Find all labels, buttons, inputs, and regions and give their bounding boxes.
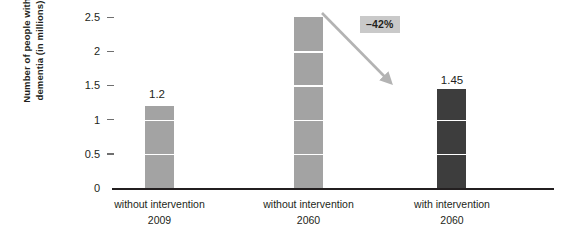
category-scenario: without intervention	[263, 198, 353, 210]
y-tick-mark	[107, 51, 114, 52]
category-year: 2060	[241, 212, 376, 228]
dementia-bar-chart: Number of people with dementia (in milli…	[0, 0, 571, 238]
bar-segment-divider	[145, 120, 174, 122]
x-axis-baseline	[112, 188, 554, 190]
y-tick-0-5: 0.5	[58, 147, 116, 161]
y-tick-label: 0.5	[60, 147, 100, 161]
category-label-3: with intervention 2060	[391, 196, 513, 228]
y-tick-label: 1	[60, 113, 100, 127]
bar-without-intervention-2009[interactable]	[145, 106, 174, 188]
bar-value-label-1: 1.2	[127, 88, 187, 101]
bar-segment-divider	[145, 154, 174, 156]
y-tick-mark	[107, 85, 114, 86]
y-axis-title: Number of people with dementia (in milli…	[21, 0, 46, 136]
bar-segment-divider	[437, 120, 466, 122]
category-label-2: without intervention 2060	[241, 196, 376, 228]
y-tick-label: 2	[60, 44, 100, 58]
y-tick-2: 2	[58, 44, 116, 58]
y-tick-0: 0	[58, 181, 116, 195]
y-tick-mark	[107, 17, 114, 18]
y-tick-label: 0	[60, 181, 100, 195]
y-tick-1-5: 1.5	[58, 78, 116, 92]
y-tick-label: 2.5	[60, 10, 100, 24]
bar-segment-divider	[437, 154, 466, 156]
category-scenario: with intervention	[414, 198, 490, 210]
y-tick-mark	[107, 153, 114, 154]
bar-segment-divider	[294, 154, 323, 156]
reduction-percentage-badge: –42%	[360, 16, 400, 33]
category-year: 2009	[92, 212, 227, 228]
bar-with-intervention-2060[interactable]	[437, 89, 466, 188]
category-label-1: without intervention 2009	[92, 196, 227, 228]
y-tick-mark	[107, 119, 114, 120]
y-tick-1: 1	[58, 113, 116, 127]
category-scenario: without intervention	[114, 198, 204, 210]
y-tick-label: 1.5	[60, 78, 100, 92]
category-year: 2060	[391, 212, 513, 228]
bar-segment-divider	[294, 120, 323, 122]
bar-value-label-3: 1.45	[422, 74, 482, 87]
y-tick-2-5: 2.5	[58, 10, 116, 24]
